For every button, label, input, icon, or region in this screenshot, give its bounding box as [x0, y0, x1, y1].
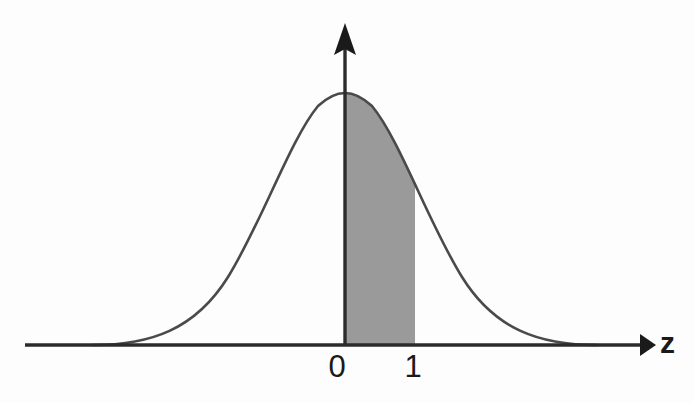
- x-axis-tick-label-0: 0: [317, 351, 357, 382]
- x-axis-tick-label-1: 1: [393, 351, 433, 382]
- x-axis-name-label: z: [660, 328, 675, 358]
- x-axis-arrowhead-icon: [640, 334, 656, 356]
- normal-curve-figure: 0 1 z: [0, 0, 694, 403]
- normal-distribution-chart: [0, 0, 694, 403]
